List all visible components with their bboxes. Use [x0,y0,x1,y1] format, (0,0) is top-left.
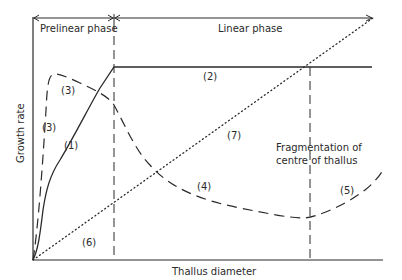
label-5: (5) [340,185,354,196]
growth-chart: Prelinear phase Linear phase (1) (2) (3)… [0,0,402,280]
label-3-lower: (3) [42,122,56,133]
fragmentation-label-line1: Fragmentation of [276,142,362,153]
fragmentation-label-line2: centre of thallus [276,155,357,166]
x-axis-label: Thallus diameter [171,266,257,277]
label-7: (7) [227,130,241,141]
label-6: (6) [82,237,96,248]
dashed-curve [33,74,383,260]
prelinear-phase-label: Prelinear phase [40,23,118,34]
linear-phase-label: Linear phase [218,23,282,34]
label-3-upper: (3) [61,85,75,96]
y-axis-label: Growth rate [15,103,26,163]
label-4: (4) [197,181,211,192]
label-1: (1) [64,140,78,151]
phase-arrows [33,14,372,22]
dotted-line [33,18,373,260]
label-2: (2) [203,71,217,82]
